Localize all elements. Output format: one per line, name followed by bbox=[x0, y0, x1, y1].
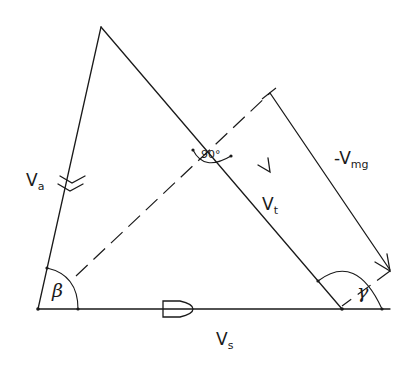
beta-label: β bbox=[51, 279, 63, 301]
perpendicular-dashed-line bbox=[76, 93, 270, 276]
vt-vector-line bbox=[101, 27, 342, 309]
gamma-angle-arc bbox=[318, 271, 382, 309]
vmg-label: -Vmg bbox=[334, 148, 368, 171]
arc-endpoint-dot bbox=[45, 266, 48, 269]
vmg-arrowhead-icon bbox=[375, 254, 390, 271]
vertex-dot bbox=[36, 307, 40, 311]
va-label: Va bbox=[26, 170, 44, 193]
arc-endpoint-dot bbox=[380, 307, 383, 310]
velocity-triangle-diagram: Va Vt Vs -Vmg β γ 90° bbox=[0, 0, 416, 387]
vs-label: Vs bbox=[216, 329, 234, 352]
vmg-start-tick bbox=[262, 88, 276, 99]
vt-chevron-icon bbox=[258, 158, 270, 172]
vmg-vector-line bbox=[270, 93, 390, 270]
vt-label: Vt bbox=[262, 194, 279, 217]
gamma-label: γ bbox=[357, 280, 369, 302]
right-angle-label: 90° bbox=[201, 148, 221, 161]
va-double-chevron-icon-2 bbox=[58, 184, 83, 191]
arc-endpoint-dot bbox=[229, 154, 232, 157]
vertex-dot bbox=[340, 307, 344, 311]
arc-endpoint-dot bbox=[316, 279, 319, 282]
va-double-chevron-icon bbox=[60, 176, 85, 183]
arc-endpoint-dot bbox=[76, 307, 79, 310]
arc-endpoint-dot bbox=[191, 148, 194, 151]
